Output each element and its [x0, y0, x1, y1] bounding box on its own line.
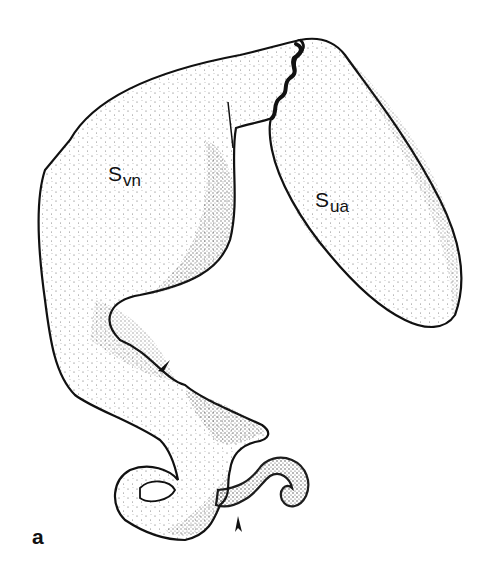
anatomical-drawing	[0, 0, 483, 564]
label-svn-sub: vn	[123, 171, 141, 190]
label-svn: Svn	[108, 163, 141, 184]
label-svn-main: S	[108, 162, 122, 185]
label-sua-sub: ua	[330, 197, 349, 216]
label-sua: Sua	[315, 189, 349, 210]
sua-structure	[270, 39, 462, 327]
lower-arrowhead-icon	[235, 516, 242, 532]
panel-label: a	[32, 525, 44, 549]
label-sua-main: S	[315, 188, 329, 211]
